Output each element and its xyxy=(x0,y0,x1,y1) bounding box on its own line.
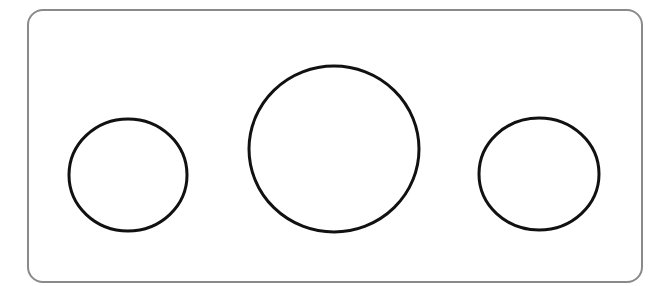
diagram-canvas xyxy=(0,0,668,286)
right-circle xyxy=(479,118,599,230)
center-circle xyxy=(249,66,419,232)
left-circle xyxy=(69,119,187,231)
frame-border xyxy=(28,10,642,282)
